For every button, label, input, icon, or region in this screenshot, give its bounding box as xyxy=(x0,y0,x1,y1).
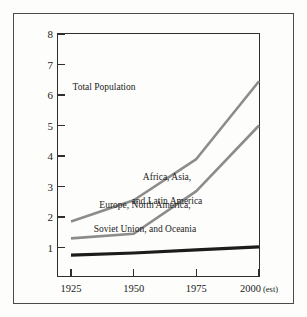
plot-area: 87654321 1925195019752000 (est) xyxy=(57,33,260,277)
y-tick-label: 3 xyxy=(48,181,54,192)
y-tick-label: 2 xyxy=(48,212,54,223)
y-tick-label: 4 xyxy=(48,151,54,162)
series-line xyxy=(71,247,259,255)
annotation-total-population: Total Population xyxy=(58,82,150,94)
y-tick-label: 8 xyxy=(48,29,54,40)
x-tick-label: 1925 xyxy=(61,284,82,295)
y-tick-label: 1 xyxy=(48,242,54,253)
annotation-line-2: Soviet Union, and Oceania xyxy=(94,224,196,234)
x-tick-label: 1950 xyxy=(123,284,144,295)
series-lines xyxy=(58,34,261,278)
annotation-line-1: Africa, Asia, xyxy=(143,172,191,182)
figure-container: Population (in billions) 87654321 192519… xyxy=(0,0,307,317)
x-tick-label: 2000 (est) xyxy=(240,284,278,295)
annotation-europe-north-america-soviet-oceania: Europe, North America, Soviet Union, and… xyxy=(84,188,206,236)
y-tick-label: 7 xyxy=(48,59,54,70)
x-tick-label-suffix: (est) xyxy=(261,284,278,294)
y-tick-label: 6 xyxy=(48,90,54,101)
x-tick-label: 1975 xyxy=(186,284,207,295)
y-tick-label: 5 xyxy=(48,120,54,131)
annotation-line-1: Europe, North America, xyxy=(99,200,190,210)
